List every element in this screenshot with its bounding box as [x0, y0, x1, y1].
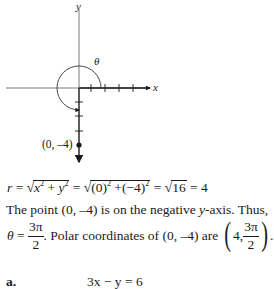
text-mid: . Polar coordinates of (0, –4) are	[44, 228, 222, 243]
denominator: 2	[243, 237, 259, 252]
radicand-2: (0)2 +(−4)2	[90, 180, 150, 195]
fraction-3pi-over-2: 3π2	[243, 220, 259, 251]
neg-four-term: (−4)	[122, 180, 145, 195]
zero-term: (0)	[91, 180, 107, 195]
r-value: 4,	[233, 228, 243, 243]
right-paren: )	[261, 217, 268, 251]
polar-plot	[0, 0, 265, 170]
part-a-label: a.	[6, 275, 16, 289]
text-pre: The point (0, –4) is on the negative	[6, 202, 199, 217]
radicand-1: x2 + y2	[33, 180, 69, 195]
part-a-equation: 3x − y = 6	[87, 275, 143, 289]
radicand-3: 16	[171, 180, 187, 195]
equals: =	[150, 180, 164, 195]
plus: +	[44, 180, 58, 195]
exp: 2	[145, 179, 149, 188]
exp: 2	[64, 179, 68, 188]
theta-symbol: θ	[7, 228, 14, 243]
fraction-3pi-over-2: 3π2	[28, 220, 44, 251]
numerator: 3π	[243, 220, 259, 236]
numerator: 3π	[28, 220, 44, 236]
equals: =	[12, 180, 26, 195]
y-axis-label: y	[76, 1, 81, 12]
theta-label: θ	[94, 56, 99, 67]
x-axis-label: x	[153, 82, 158, 93]
text-post: -axis. Thus,	[205, 202, 268, 217]
result: = 4	[187, 180, 208, 195]
point-marker	[76, 142, 81, 147]
period: .	[270, 228, 273, 243]
left-paren: (	[224, 217, 231, 251]
plus: +	[111, 180, 122, 195]
equals: =	[69, 180, 83, 195]
point-label: (0, –4)	[42, 139, 73, 151]
radius-equation: r = √x2 + y2 = √(0)2 +(−4)2 = √16 = 4	[7, 180, 208, 195]
denominator: 2	[28, 237, 44, 252]
equals: =	[14, 228, 28, 243]
theta-conclusion: θ = 3π2. Polar coordinates of (0, –4) ar…	[7, 220, 273, 254]
